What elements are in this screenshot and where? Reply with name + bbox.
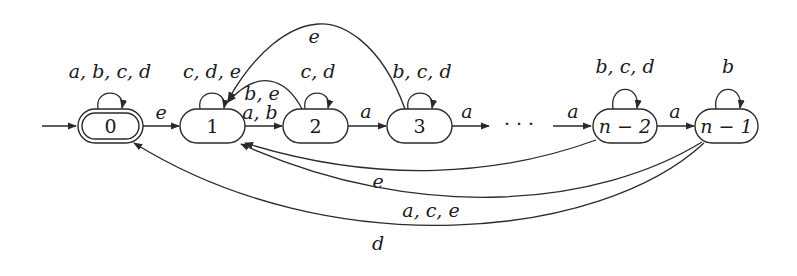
loop-2 bbox=[305, 93, 329, 109]
edge-n1-1 bbox=[241, 142, 702, 197]
loop-0-label: a, b, c, d bbox=[69, 60, 152, 82]
state-n-1[interactable]: n − 1 bbox=[695, 109, 758, 143]
loop-n-2-label: b, c, d bbox=[595, 55, 654, 77]
edge-1-2-label: a, b bbox=[242, 101, 278, 123]
state-0[interactable]: 0 bbox=[78, 109, 143, 143]
edge-n2-n1-label: a bbox=[669, 100, 680, 122]
state-n-2[interactable]: n − 2 bbox=[593, 109, 657, 143]
loop-3-label: b, c, d bbox=[392, 60, 451, 82]
edge-3-1-label: e bbox=[308, 25, 319, 47]
edge-3-ellipsis-label: a bbox=[461, 100, 472, 122]
loop-n-1 bbox=[716, 89, 741, 109]
state-n-2-label: n − 2 bbox=[599, 115, 651, 137]
edge-ellipsis-n2-label: a bbox=[567, 100, 578, 122]
state-1[interactable]: 1 bbox=[180, 109, 245, 143]
loop-0 bbox=[98, 93, 123, 109]
loop-2-label: c, d bbox=[301, 60, 336, 82]
loop-1 bbox=[200, 93, 225, 109]
state-0-label: 0 bbox=[104, 115, 116, 137]
loop-1-label: c, d, e bbox=[183, 60, 241, 82]
state-3[interactable]: 3 bbox=[387, 109, 452, 143]
loop-3 bbox=[408, 93, 433, 109]
edge-2-3-label: a bbox=[360, 100, 371, 122]
edge-0-1-label: e bbox=[155, 101, 166, 123]
state-n-1-label: n − 1 bbox=[700, 115, 752, 137]
edge-n1-0-label: d bbox=[372, 232, 384, 254]
loop-n-2 bbox=[613, 89, 638, 109]
edge-2-1-label: b, e bbox=[244, 82, 280, 104]
state-3-label: 3 bbox=[413, 115, 425, 137]
state-2[interactable]: 2 bbox=[283, 109, 348, 143]
state-1-label: 1 bbox=[206, 115, 218, 137]
edge-n1-1-label: a, c, e bbox=[402, 199, 459, 221]
loop-n-1-label: b bbox=[722, 55, 734, 77]
automaton-diagram: 0 a, b, c, d e 1 c, d, e a, b 2 c, d b, … bbox=[0, 0, 797, 276]
ellipsis: · · · bbox=[504, 112, 534, 134]
state-2-label: 2 bbox=[309, 115, 321, 137]
